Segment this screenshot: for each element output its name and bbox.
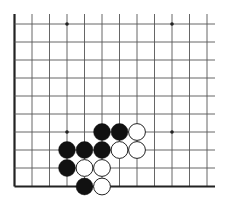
star-point xyxy=(65,130,69,134)
white-stone xyxy=(129,124,146,141)
white-stone xyxy=(94,160,111,177)
black-stone xyxy=(76,142,93,159)
white-stone xyxy=(76,160,93,177)
white-stone xyxy=(129,142,146,159)
black-stone xyxy=(94,124,111,141)
white-stone xyxy=(94,178,111,195)
black-stone xyxy=(76,178,93,195)
star-point xyxy=(170,130,174,134)
grid-lines xyxy=(15,14,216,187)
black-stone xyxy=(59,160,76,177)
black-stone xyxy=(111,124,128,141)
stones xyxy=(59,124,146,195)
go-board xyxy=(0,0,227,205)
star-point xyxy=(170,22,174,26)
black-stone xyxy=(94,142,111,159)
white-stone xyxy=(111,142,128,159)
black-stone xyxy=(59,142,76,159)
star-point xyxy=(65,22,69,26)
